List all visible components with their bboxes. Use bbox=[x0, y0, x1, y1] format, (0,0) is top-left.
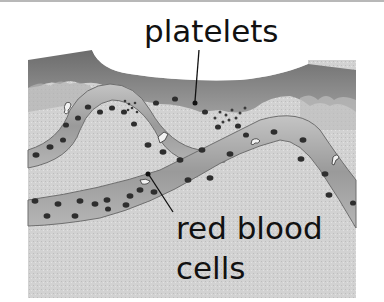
label-platelets: platelets bbox=[144, 16, 279, 47]
platelets-pointer-dot bbox=[193, 101, 198, 106]
label-red-blood-cells-line2: cells bbox=[176, 248, 323, 288]
label-red-blood-cells: red blood cells bbox=[176, 208, 323, 288]
label-red-blood-cells-line1: red blood bbox=[176, 208, 323, 248]
red-blood-cells-pointer-dot bbox=[146, 172, 151, 177]
